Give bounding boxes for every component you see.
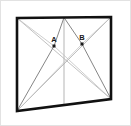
point-a-marker: [53, 45, 56, 48]
point-b-label: B: [79, 33, 85, 42]
geometry-diagram: A B: [0, 0, 131, 126]
point-a-label: A: [51, 35, 57, 44]
figure-root: A B: [0, 0, 131, 126]
point-b-marker: [81, 43, 84, 46]
